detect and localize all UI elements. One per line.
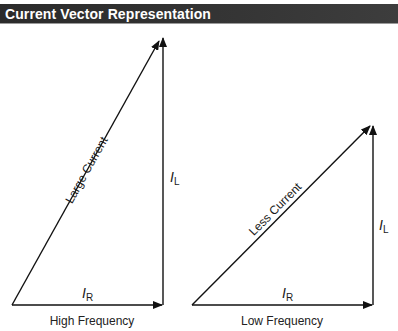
low-frequency-caption: Low Frequency (241, 314, 323, 328)
il-label-low: IL (379, 217, 389, 235)
il-label-high: IL (170, 169, 180, 187)
high-frequency-caption: High Frequency (50, 314, 135, 328)
less-current-label: Less Current (246, 179, 305, 238)
high-frequency-diagram: Large Current IL IR High Frequency (12, 38, 180, 328)
ir-label-high: IR (82, 285, 93, 303)
vector-diagrams: Large Current IL IR High Frequency Less … (0, 0, 398, 331)
total-current-vector-low (192, 126, 370, 305)
low-frequency-diagram: Less Current IL IR Low Frequency (192, 126, 389, 328)
ir-label-low: IR (282, 285, 293, 303)
large-current-label: Large Current (62, 134, 111, 206)
